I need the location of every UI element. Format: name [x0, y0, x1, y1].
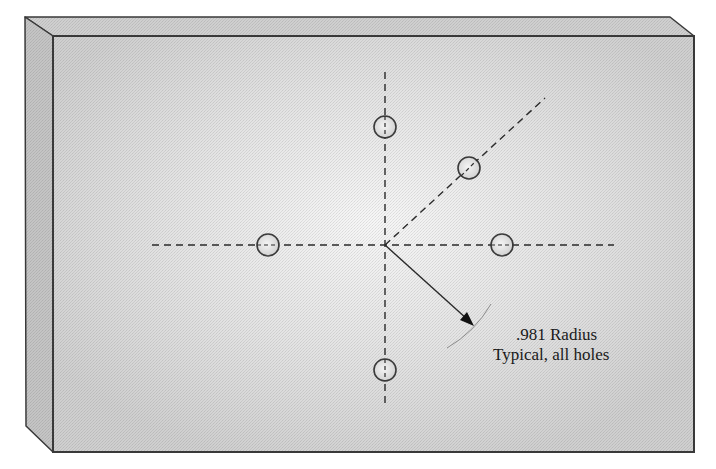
radius-annotation-note: Typical, all holes	[493, 345, 609, 365]
hole-diagonal	[458, 157, 480, 179]
radius-annotation-value: .981 Radius	[516, 325, 597, 345]
hole-left	[257, 234, 279, 256]
block-diagram	[0, 0, 716, 469]
hole-right	[491, 234, 513, 256]
hole-bottom	[374, 359, 396, 381]
hole-top	[374, 116, 396, 138]
